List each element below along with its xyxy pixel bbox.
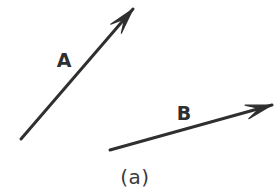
vector-b-label: B <box>177 102 191 124</box>
vector-diagram-canvas: A B (a) <box>0 0 280 194</box>
figure-container: A B (a) <box>0 0 280 194</box>
figure-caption: (a) <box>120 165 149 189</box>
vector-a-shaft <box>21 9 133 139</box>
vector-a-label: A <box>57 49 72 71</box>
